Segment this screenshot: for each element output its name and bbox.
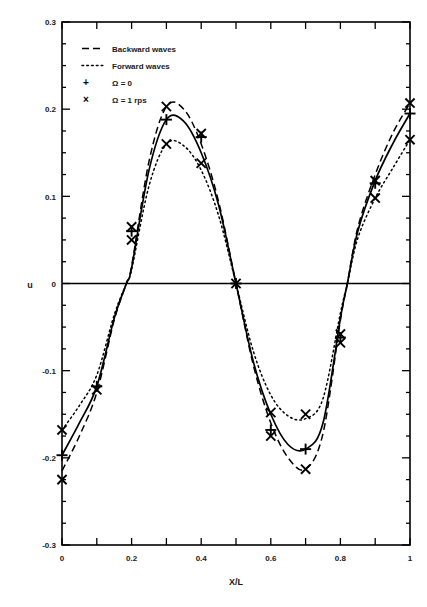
y-tick-label: -0.1: [42, 367, 56, 376]
y-tick-label: -0.3: [42, 541, 56, 550]
y-tick-label: -0.2: [42, 454, 56, 463]
x-tick-label: 0.6: [265, 554, 277, 563]
figure-container: 00.20.40.60.810.30.20.10-0.1-0.2-0.3 X/L…: [0, 0, 427, 607]
legend-entry-label: Ω = 1 rps: [112, 96, 147, 105]
x-tick-label: 0.4: [196, 554, 208, 563]
y-tick-label: 0.2: [45, 105, 57, 114]
legend-entry-label: Backward waves: [112, 45, 177, 54]
x-tick-label: 0: [60, 554, 65, 563]
y-tick-label: 0.1: [45, 193, 57, 202]
y-tick-label: 0.3: [45, 18, 57, 27]
legend-marker-swatch: ×: [83, 94, 89, 105]
y-tick-label: 0: [52, 280, 57, 289]
y-axis-label: u: [27, 280, 33, 290]
wave-displacement-chart: 00.20.40.60.810.30.20.10-0.1-0.2-0.3 X/L…: [0, 0, 427, 607]
x-axis-label: X/L: [229, 577, 244, 587]
legend-marker-swatch: +: [83, 77, 89, 88]
chart-background: [0, 0, 427, 607]
x-tick-label: 0.2: [126, 554, 138, 563]
legend-entry-label: Forward waves: [112, 62, 170, 71]
legend-entry-label: Ω = 0: [112, 79, 133, 88]
x-tick-label: 1: [408, 554, 413, 563]
x-tick-label: 0.8: [335, 554, 347, 563]
